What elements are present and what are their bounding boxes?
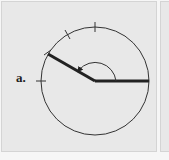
tick-120 bbox=[65, 30, 70, 39]
angle-arc-arrow bbox=[79, 62, 116, 81]
terminal-side-ray bbox=[48, 54, 95, 81]
angle-diagram bbox=[0, 0, 169, 160]
